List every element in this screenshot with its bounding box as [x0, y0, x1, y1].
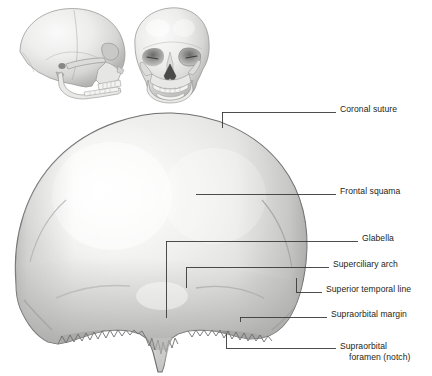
- label-superciliary-arch: Superciliary arch: [333, 259, 398, 270]
- label-superior-temporal-line: Superior temporal line: [326, 284, 411, 295]
- labels-layer: Coronal suture Frontal squama Glabella S…: [0, 0, 432, 376]
- label-supraorbital-margin-text: Supraorbital margin: [331, 309, 407, 319]
- label-frontal-squama-text: Frontal squama: [340, 186, 400, 196]
- label-superior-temporal-line-text: Superior temporal line: [326, 284, 411, 294]
- anatomy-figure: Coronal suture Frontal squama Glabella S…: [0, 0, 432, 376]
- label-supraorbital-margin: Supraorbital margin: [331, 309, 407, 320]
- label-superciliary-arch-text: Superciliary arch: [333, 259, 398, 269]
- label-glabella-text: Glabella: [362, 233, 394, 243]
- label-frontal-squama: Frontal squama: [340, 186, 400, 197]
- label-coronal-suture: Coronal suture: [340, 104, 397, 115]
- label-supraorbital-foramen-text: Supraorbital: [340, 341, 387, 351]
- label-supraorbital-foramen-text-line2: foramen (notch): [340, 352, 410, 363]
- label-supraorbital-foramen: Supraorbital foramen (notch): [340, 341, 410, 362]
- label-glabella: Glabella: [362, 233, 394, 244]
- label-coronal-suture-text: Coronal suture: [340, 104, 397, 114]
